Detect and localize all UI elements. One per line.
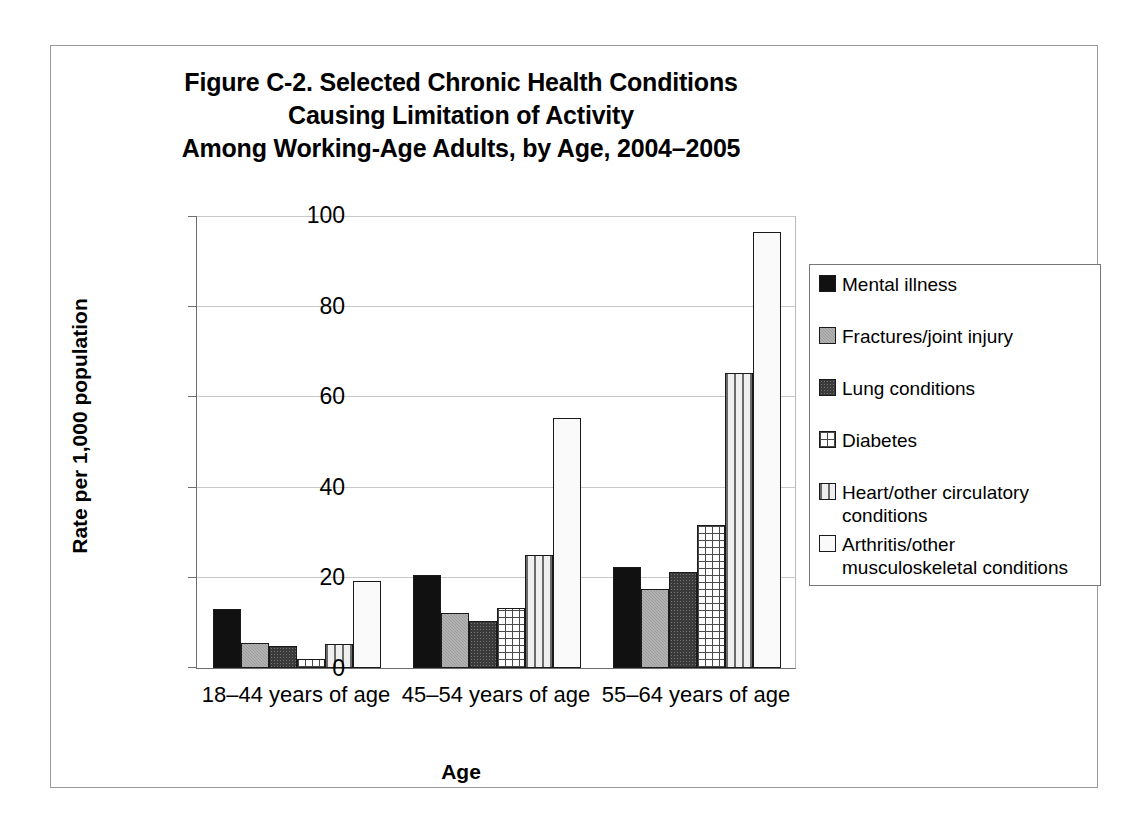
bar [725, 373, 753, 668]
y-axis-tick [188, 306, 197, 307]
bar [469, 621, 497, 668]
legend-item[interactable]: Fractures/joint injury [819, 325, 1092, 348]
y-axis-tick [188, 577, 197, 578]
legend-item[interactable]: Diabetes [819, 429, 1092, 452]
bar [525, 555, 553, 668]
y-axis-tick [188, 667, 197, 668]
figure-frame: Figure C-2. Selected Chronic Health Cond… [50, 45, 1098, 788]
legend-swatch-icon [819, 431, 836, 448]
y-axis-tick [188, 487, 197, 488]
y-axis-tick [188, 396, 197, 397]
bar [413, 575, 441, 668]
bar [753, 232, 781, 668]
bar [613, 567, 641, 668]
x-axis-tick-label: 55–64 years of age [596, 681, 796, 709]
bar-group [397, 217, 597, 668]
bar-group [597, 217, 797, 668]
bar-group [197, 217, 397, 668]
y-axis-tick-label: 60 [225, 385, 345, 408]
legend-label: Mental illness [842, 273, 957, 296]
plot-area [196, 216, 796, 669]
bar [353, 581, 381, 668]
title-line-3: Among Working-Age Adults, by Age, 2004–2… [111, 132, 811, 165]
legend-label: Fractures/joint injury [842, 325, 1013, 348]
x-axis-title: Age [136, 760, 786, 784]
y-axis-tick-label: 100 [225, 204, 345, 227]
legend-label: Heart/other circulatory conditions [842, 481, 1092, 527]
legend-label: Diabetes [842, 429, 917, 452]
legend-swatch-icon [819, 379, 836, 396]
legend-item[interactable]: Lung conditions [819, 377, 1092, 400]
legend-swatch-icon [819, 327, 836, 344]
legend-label: Arthritis/other musculoskeletal conditio… [842, 533, 1092, 579]
figure-title: Figure C-2. Selected Chronic Health Cond… [111, 66, 811, 165]
legend-item[interactable]: Heart/other circulatory conditions [819, 481, 1092, 527]
title-line-2: Causing Limitation of Activity [111, 99, 811, 132]
bar [497, 608, 525, 668]
x-axis-tick-label: 18–44 years of age [196, 681, 396, 709]
y-axis-tick-label: 0 [225, 657, 345, 680]
legend-swatch-icon [819, 275, 836, 292]
y-axis-tick-label: 20 [225, 566, 345, 589]
bar [697, 525, 725, 668]
bar [441, 613, 469, 668]
y-axis-tick-label: 40 [225, 476, 345, 499]
y-axis-title: Rate per 1,000 population [68, 256, 92, 596]
legend: Mental illnessFractures/joint injuryLung… [809, 264, 1101, 586]
legend-item[interactable]: Arthritis/other musculoskeletal conditio… [819, 533, 1092, 579]
legend-label: Lung conditions [842, 377, 975, 400]
y-axis-tick-label: 80 [225, 295, 345, 318]
bar [553, 418, 581, 668]
x-axis-tick-label: 45–54 years of age [396, 681, 596, 709]
y-axis-tick [188, 216, 197, 217]
legend-swatch-icon [819, 483, 836, 500]
bar [641, 589, 669, 668]
legend-swatch-icon [819, 535, 836, 552]
title-line-1: Figure C-2. Selected Chronic Health Cond… [111, 66, 811, 99]
legend-item[interactable]: Mental illness [819, 273, 1092, 296]
bar [669, 572, 697, 669]
